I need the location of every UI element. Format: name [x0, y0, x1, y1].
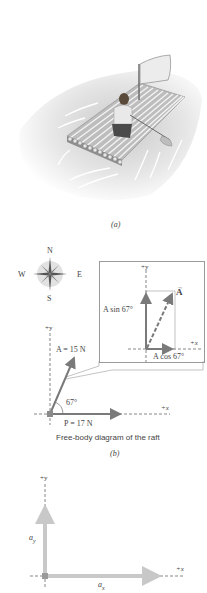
force-p-label: P = 17 N: [64, 419, 92, 428]
accel-axes: [30, 484, 185, 588]
ax-label: ax: [98, 580, 105, 591]
force-a-label: A = 15 N: [56, 345, 86, 354]
fbd-y-axis-label: +y: [45, 324, 52, 332]
vector-arrow-accent: →: [177, 284, 183, 290]
inset-x-component-label: A cos 67°: [153, 352, 184, 361]
angle-label: 67°: [66, 398, 77, 407]
accel-x-axis-label: +x: [176, 565, 184, 573]
fbd-axes: [34, 333, 170, 425]
accel-y-axis-label: +y: [40, 474, 47, 482]
inset-x-axis-label: +x: [190, 339, 198, 347]
ay-label: ay: [29, 533, 36, 544]
ay-label-subscript: y: [33, 538, 36, 544]
inset-y-component-label: A sin 67°: [103, 305, 133, 314]
caption-b: (b): [110, 449, 119, 458]
inset-y-axis-label: +y: [141, 263, 148, 271]
fbd-description: Free-body diagram of the raft: [56, 433, 160, 442]
fbd-x-axis-label: +x: [161, 404, 169, 412]
ax-label-subscript: x: [102, 585, 105, 591]
